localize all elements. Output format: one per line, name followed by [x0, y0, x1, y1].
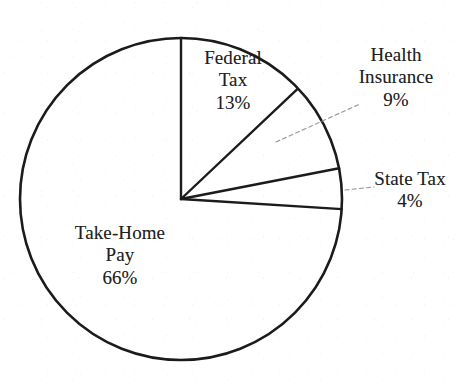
slice-label-state-tax: State Tax 4% [358, 168, 462, 213]
slice-label-state-tax-line1: State Tax [358, 168, 462, 190]
slice-label-take-home-pay: Take-Home Pay 66% [44, 222, 196, 289]
slice-label-take-home-pay-line2: Pay [44, 244, 196, 266]
slice-value-state-tax: 4% [358, 190, 462, 212]
slice-value-take-home-pay: 66% [44, 267, 196, 289]
slice-label-health-insurance-line1: Health [330, 44, 462, 66]
slice-value-federal-tax: 13% [181, 92, 285, 114]
slice-value-health-insurance: 9% [330, 89, 462, 111]
slice-label-federal-tax-line1: Federal [181, 47, 285, 69]
pie-chart: Federal Tax 13% Health Insurance 9% Stat… [0, 0, 462, 389]
slice-label-federal-tax: Federal Tax 13% [181, 47, 285, 114]
slice-label-federal-tax-line2: Tax [181, 69, 285, 91]
slice-label-health-insurance-line2: Insurance [330, 66, 462, 88]
slice-label-health-insurance: Health Insurance 9% [330, 44, 462, 111]
slice-label-take-home-pay-line1: Take-Home [44, 222, 196, 244]
